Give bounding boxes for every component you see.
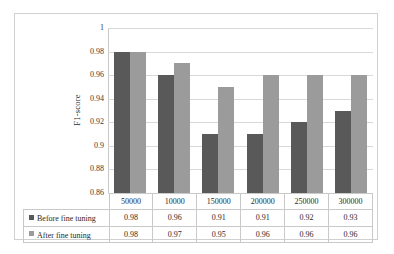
table-row: After fine tuning0.980.970.950.960.960.9… bbox=[24, 226, 373, 243]
value-cell: 0.95 bbox=[197, 226, 241, 243]
category-header-cell: 50000 bbox=[109, 194, 153, 210]
data-table: 5000010000150000200000250000300000Before… bbox=[23, 193, 373, 243]
legend-entry: Before fine tuning bbox=[24, 210, 110, 227]
plot-area: 10.980.960.940.920.90.880.86 bbox=[108, 28, 373, 193]
bar-group bbox=[285, 28, 329, 193]
bar bbox=[202, 134, 218, 193]
bar bbox=[247, 134, 263, 193]
legend-swatch-icon bbox=[29, 231, 34, 236]
category-header-cell: 300000 bbox=[329, 194, 373, 210]
category-header-cell: 10000 bbox=[153, 194, 197, 210]
y-axis-tick-label: 1 bbox=[100, 24, 104, 32]
bar bbox=[158, 75, 174, 193]
bar bbox=[174, 63, 190, 193]
value-cell: 0.91 bbox=[241, 210, 285, 227]
y-axis-tick-label: 0.98 bbox=[90, 48, 104, 56]
legend-label: After fine tuning bbox=[37, 230, 91, 239]
bar-group bbox=[196, 28, 240, 193]
bar bbox=[263, 75, 279, 193]
bar bbox=[114, 52, 130, 193]
value-cell: 0.96 bbox=[153, 210, 197, 227]
value-cell: 0.96 bbox=[241, 226, 285, 243]
table-row: 5000010000150000200000250000300000 bbox=[24, 194, 373, 210]
bar-group bbox=[108, 28, 152, 193]
category-header-cell: 150000 bbox=[197, 194, 241, 210]
y-axis-tick-label: 0.94 bbox=[90, 95, 104, 103]
legend-entry: After fine tuning bbox=[24, 226, 110, 243]
bar bbox=[130, 52, 146, 193]
value-cell: 0.96 bbox=[285, 226, 329, 243]
bar bbox=[335, 111, 351, 194]
bar bbox=[351, 75, 367, 193]
legend-label: Before fine tuning bbox=[37, 214, 96, 223]
bar-group bbox=[152, 28, 196, 193]
y-axis-title: F1-score bbox=[72, 94, 82, 125]
value-cell: 0.97 bbox=[153, 226, 197, 243]
table-corner-cell bbox=[24, 194, 110, 210]
y-axis-tick-label: 0.96 bbox=[90, 71, 104, 79]
bar bbox=[307, 75, 323, 193]
value-cell: 0.98 bbox=[109, 226, 153, 243]
legend-swatch-icon bbox=[29, 215, 34, 220]
bar-group bbox=[241, 28, 285, 193]
y-axis-tick-label: 0.9 bbox=[94, 142, 104, 150]
bar-group bbox=[329, 28, 373, 193]
y-axis-tick-label: 0.92 bbox=[90, 118, 104, 126]
category-header-cell: 250000 bbox=[285, 194, 329, 210]
category-header-cell: 200000 bbox=[241, 194, 285, 210]
table-row: Before fine tuning0.980.960.910.910.920.… bbox=[24, 210, 373, 227]
value-cell: 0.92 bbox=[285, 210, 329, 227]
value-cell: 0.96 bbox=[329, 226, 373, 243]
chart-frame: F1-score 10.980.960.940.920.90.880.86 50… bbox=[14, 13, 378, 240]
bar bbox=[291, 122, 307, 193]
value-cell: 0.93 bbox=[329, 210, 373, 227]
bar bbox=[218, 87, 234, 193]
y-axis-tick-label: 0.88 bbox=[90, 165, 104, 173]
value-cell: 0.91 bbox=[197, 210, 241, 227]
value-cell: 0.98 bbox=[109, 210, 153, 227]
